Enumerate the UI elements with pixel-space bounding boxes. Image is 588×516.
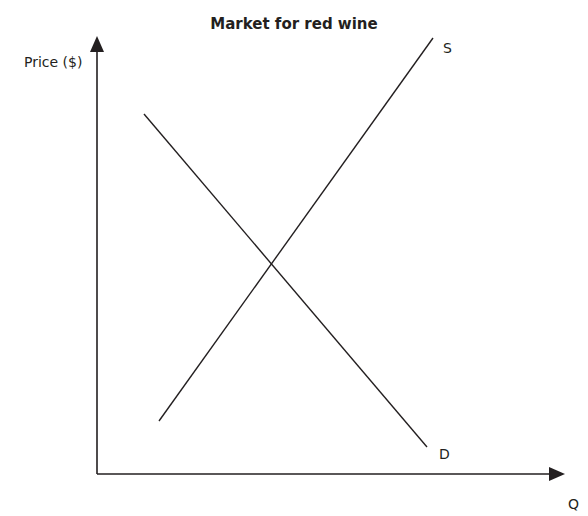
supply-curve bbox=[159, 38, 433, 421]
x-axis-label: Q bbox=[568, 496, 579, 512]
y-axis-label: Price ($) bbox=[24, 54, 82, 70]
demand-label: D bbox=[439, 446, 450, 462]
supply-label: S bbox=[443, 40, 452, 56]
y-axis-arrowhead-icon bbox=[90, 36, 104, 52]
demand-curve bbox=[144, 114, 427, 447]
x-axis-arrowhead-icon bbox=[549, 467, 565, 481]
market-chart bbox=[0, 0, 588, 516]
